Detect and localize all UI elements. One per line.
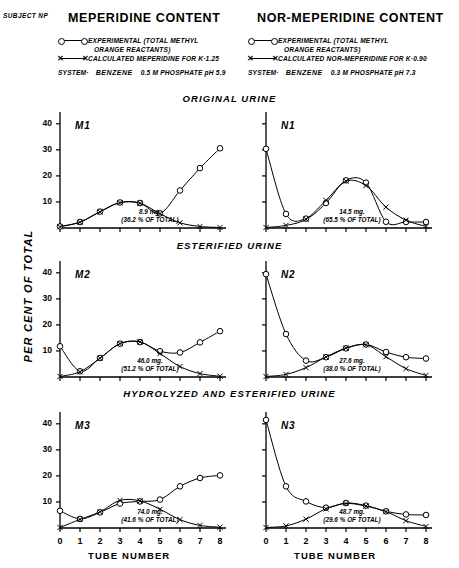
panel-label-n3: N3 bbox=[281, 420, 295, 431]
data-point-circle bbox=[137, 200, 143, 206]
data-point-circle bbox=[97, 209, 103, 215]
data-point-cross bbox=[137, 339, 142, 344]
panel-annotation-m1: 8.9 mg.(36.2 % OF TOTAL) bbox=[105, 208, 195, 224]
data-point-cross bbox=[117, 341, 122, 346]
data-point-circle bbox=[363, 180, 369, 186]
circle-line-symbol-icon bbox=[58, 36, 88, 45]
data-point-cross bbox=[343, 179, 348, 184]
data-point-cross bbox=[423, 373, 428, 378]
data-point-circle bbox=[197, 475, 203, 481]
data-point-cross bbox=[423, 224, 428, 229]
data-point-circle bbox=[283, 211, 289, 217]
section-heading-esterified-urine: ESTERIFIED URINE bbox=[0, 240, 459, 251]
system-label-right: SYSTEM· bbox=[248, 69, 279, 76]
legend-experimental-row2-left: ORANGE REACTANTS) bbox=[58, 45, 228, 54]
legend-experimental-row2-right: ORANGE REACTANTS) bbox=[248, 45, 427, 54]
x-tick-label: 4 bbox=[341, 536, 351, 546]
y-tick-label: 30 bbox=[36, 144, 52, 154]
y-tick-label: 30 bbox=[36, 444, 52, 454]
data-point-circle bbox=[423, 512, 429, 518]
annotation-percent: (51.2 % OF TOTAL) bbox=[105, 365, 195, 373]
x-tick-label: 7 bbox=[401, 536, 411, 546]
data-point-circle bbox=[283, 331, 289, 337]
data-point-circle bbox=[403, 354, 409, 360]
data-point-cross bbox=[283, 372, 288, 377]
legend-calculated-row-right: ✕✕ CALCULATED NOR-MEPERIDINE FOR K·0.90 bbox=[248, 54, 427, 63]
data-point-circle bbox=[217, 145, 223, 151]
data-point-cross bbox=[157, 351, 162, 356]
data-point-cross bbox=[283, 223, 288, 228]
data-point-circle bbox=[363, 342, 369, 348]
data-point-cross bbox=[217, 525, 222, 530]
data-point-circle bbox=[57, 343, 63, 349]
annotation-percent: (29.6 % OF TOTAL) bbox=[307, 516, 397, 524]
data-point-circle bbox=[77, 368, 83, 374]
data-point-cross bbox=[57, 374, 62, 379]
y-tick-label: 20 bbox=[36, 319, 52, 329]
data-point-circle bbox=[263, 271, 269, 277]
data-point-circle bbox=[403, 512, 409, 518]
data-point-cross bbox=[77, 517, 82, 522]
data-point-cross bbox=[343, 345, 348, 350]
y-tick-label: 10 bbox=[36, 196, 52, 206]
data-point-cross bbox=[137, 201, 142, 206]
data-point-circle bbox=[343, 178, 349, 184]
annotation-mg: 46.0 mg. bbox=[105, 357, 195, 365]
legend-experimental-label2-right: ORANGE REACTANTS) bbox=[284, 46, 361, 53]
system-numerator-right: BENZENE bbox=[282, 69, 327, 76]
panel-label-n1: N1 bbox=[281, 120, 295, 131]
x-tick-label: 5 bbox=[155, 536, 165, 546]
data-point-cross bbox=[263, 525, 268, 530]
y-tick-label: 20 bbox=[36, 470, 52, 480]
x-tick-label: 5 bbox=[361, 536, 371, 546]
system-numerator-left: BENZENE bbox=[92, 69, 137, 76]
x-tick-label: 8 bbox=[421, 536, 431, 546]
data-point-circle bbox=[303, 499, 309, 505]
x-tick-label: 2 bbox=[301, 536, 311, 546]
x-tick-label: 3 bbox=[115, 536, 125, 546]
x-tick-label: 2 bbox=[95, 536, 105, 546]
x-tick-label: 4 bbox=[135, 536, 145, 546]
data-point-cross bbox=[263, 225, 268, 230]
x-tick-label: 1 bbox=[281, 536, 291, 546]
data-point-circle bbox=[343, 346, 349, 352]
cross-line-symbol-icon: ✕✕ bbox=[248, 54, 278, 63]
system-denominator-left: 0.5 M PHOSPHATE pH 5.9 bbox=[139, 69, 228, 76]
panel-label-m1: M1 bbox=[75, 120, 91, 131]
cross-line-symbol-icon: ✕✕ bbox=[58, 54, 88, 63]
series-line-circle bbox=[266, 274, 426, 362]
data-point-cross bbox=[403, 518, 408, 523]
x-tick-label: 8 bbox=[215, 536, 225, 546]
x-axis-caption: TUBE NUMBER bbox=[294, 550, 376, 561]
data-point-circle bbox=[57, 224, 63, 230]
data-point-circle bbox=[117, 501, 123, 507]
x-tick-label: 1 bbox=[75, 536, 85, 546]
data-point-cross bbox=[323, 198, 328, 203]
x-tick-label: 3 bbox=[321, 536, 331, 546]
data-point-circle bbox=[283, 484, 289, 490]
system-fraction-left: BENZENE 0.5 M PHOSPHATE pH 5.9 bbox=[92, 69, 228, 76]
annotation-percent: (38.0 % OF TOTAL) bbox=[307, 365, 397, 373]
data-point-cross bbox=[263, 374, 268, 379]
column-title-meperidine: MEPERIDINE CONTENT bbox=[68, 11, 220, 25]
x-axis-caption: TUBE NUMBER bbox=[88, 550, 170, 561]
data-point-cross bbox=[197, 523, 202, 528]
annotation-mg: 14.5 mg. bbox=[307, 208, 397, 216]
data-point-circle bbox=[197, 165, 203, 171]
legend-experimental-label-left: EXPERIMENTAL (TOTAL METHYL bbox=[88, 37, 198, 44]
section-heading-hydrolyzed-esterified-urine: HYDROLYZED AND ESTERIFIED URINE bbox=[0, 388, 459, 399]
figure-canvas: SUBJECT NP MEPERIDINE CONTENT NOR-MEPERI… bbox=[0, 0, 459, 568]
data-point-cross bbox=[423, 524, 428, 529]
annotation-percent: (65.5 % OF TOTAL) bbox=[307, 216, 397, 224]
data-point-cross bbox=[217, 225, 222, 230]
data-point-circle bbox=[117, 341, 123, 347]
series-line-circle bbox=[266, 420, 426, 515]
data-point-cross bbox=[77, 220, 82, 225]
y-tick-label: 10 bbox=[36, 496, 52, 506]
data-point-circle bbox=[97, 510, 103, 516]
legend-right: EXPERIMENTAL (TOTAL METHYL ORANGE REACTA… bbox=[248, 36, 427, 76]
legend-experimental-label-right: EXPERIMENTAL (TOTAL METHYL bbox=[278, 37, 388, 44]
data-point-circle bbox=[157, 348, 163, 354]
data-point-cross bbox=[403, 218, 408, 223]
data-point-circle bbox=[217, 328, 223, 334]
